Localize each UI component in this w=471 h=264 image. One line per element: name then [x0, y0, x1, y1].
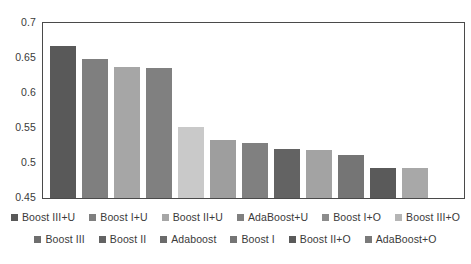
bar — [178, 127, 204, 198]
legend-swatch-icon — [230, 236, 237, 243]
bar — [146, 68, 172, 198]
legend-label: Boost III+O — [406, 211, 460, 223]
y-axis: 0.7 0.65 0.6 0.55 0.5 0.45 — [0, 14, 40, 204]
legend-swatch-icon — [160, 236, 167, 243]
legend-item[interactable]: Boost I — [230, 233, 274, 245]
legend-swatch-icon — [322, 214, 329, 221]
legend-item[interactable]: Boost II+O — [289, 233, 351, 245]
y-axis-tick: 0.7 — [21, 16, 36, 28]
legend-item[interactable]: Boost III — [34, 233, 84, 245]
legend-label: Boost II+U — [173, 211, 223, 223]
legend-row: Boost III+UBoost I+UBoost II+UAdaBoost+U… — [0, 206, 471, 228]
legend-item[interactable]: Boost III+U — [11, 211, 75, 223]
y-axis-tick: 0.45 — [15, 191, 36, 203]
bar — [114, 67, 140, 198]
bar — [338, 155, 364, 198]
legend-label: Adaboost — [171, 233, 216, 245]
legend-item[interactable]: Boost II+U — [162, 211, 223, 223]
legend-label: Boost I+U — [100, 211, 147, 223]
legend-item[interactable]: AdaBoost+O — [365, 233, 437, 245]
bar — [274, 149, 300, 198]
legend-item[interactable]: AdaBoost+U — [237, 211, 308, 223]
legend-swatch-icon — [289, 236, 296, 243]
legend-label: Boost III+U — [22, 211, 75, 223]
plot-area: 0.7 0.65 0.6 0.55 0.5 0.45 — [0, 14, 471, 204]
legend-item[interactable]: Boost III+O — [395, 211, 460, 223]
legend-label: AdaBoost+O — [376, 233, 437, 245]
legend-item[interactable]: Boost I+U — [89, 211, 147, 223]
legend-swatch-icon — [162, 214, 169, 221]
legend-label: Boost II+O — [300, 233, 351, 245]
legend-row: Boost IIIBoost IIAdaboostBoost IBoost II… — [0, 228, 471, 250]
legend-label: AdaBoost+U — [248, 211, 308, 223]
legend-item[interactable]: Boost I+O — [322, 211, 381, 223]
bar — [50, 46, 76, 198]
bar — [210, 140, 236, 198]
bar — [370, 168, 396, 198]
legend-item[interactable]: Adaboost — [160, 233, 216, 245]
legend-swatch-icon — [395, 214, 402, 221]
plot-frame — [42, 22, 465, 199]
y-axis-tick: 0.6 — [21, 86, 36, 98]
legend-swatch-icon — [365, 236, 372, 243]
legend-label: Boost I — [241, 233, 274, 245]
legend-label: Boost III — [45, 233, 84, 245]
bar — [306, 150, 332, 198]
y-axis-tick: 0.55 — [15, 121, 36, 133]
legend-label: Boost I+O — [333, 211, 381, 223]
y-axis-tick: 0.65 — [15, 51, 36, 63]
legend-swatch-icon — [99, 236, 106, 243]
legend-label: Boost II — [110, 233, 146, 245]
legend-swatch-icon — [237, 214, 244, 221]
bar — [242, 143, 268, 198]
legend-swatch-icon — [89, 214, 96, 221]
bar-series — [43, 23, 464, 198]
bar-chart: 0.7 0.65 0.6 0.55 0.5 0.45 Boost III+UBo… — [0, 0, 471, 264]
y-axis-tick: 0.5 — [21, 156, 36, 168]
legend-swatch-icon — [11, 214, 18, 221]
bar — [402, 168, 428, 198]
bar — [82, 59, 108, 198]
legend-swatch-icon — [34, 236, 41, 243]
chart-legend: Boost III+UBoost I+UBoost II+UAdaBoost+U… — [0, 206, 471, 250]
legend-item[interactable]: Boost II — [99, 233, 146, 245]
